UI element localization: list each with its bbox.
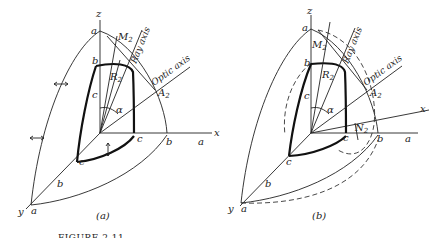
ray-line-1 [100,36,117,133]
tick-c-z: c [304,90,310,101]
panel-b-sublabel: (b) [312,210,326,221]
tick-b-y: b [265,178,271,189]
inner-curve-zy [77,66,96,162]
y-axis-label: y [227,203,234,214]
panel-a: z x y a b c c b a c b a M2 R2 A2 α Ray a… [17,8,220,221]
z-axis-label: z [95,8,102,19]
tick-b-x: b [377,133,383,144]
figure-caption: FIGURE 2.11 [58,233,124,238]
ray-axis-label: Ray axis [128,25,152,65]
inner-curve-xy [77,136,134,162]
y-axis-label: y [17,206,24,217]
outer-arc-zy [31,31,100,205]
panel-b: z x y a b c c b a c b a M2 R2 A2 N2 α Ra… [227,5,429,221]
tick-b-x: b [166,136,172,147]
dashed-curve-xy [241,140,378,203]
arrow-icon [30,136,44,140]
point-a2: A2 [369,87,382,100]
tick-b-z: b [304,57,310,68]
alpha-label: α [327,104,334,115]
ray-axis-label: Ray axis [340,25,364,65]
tick-b-y: b [57,178,63,189]
tick-a-x: a [198,136,204,147]
point-m2: M2 [311,39,327,52]
figure-canvas: z x y a b c c b a c b a M2 R2 A2 α Ray a… [0,0,442,238]
tick-c-x: c [137,133,143,144]
panel-a-sublabel: (a) [96,210,110,221]
outer-arc-zy [241,29,311,203]
inner-curve-zy [289,64,311,156]
tick-c-y: c [286,156,292,167]
tick-a-z: a [91,25,97,36]
point-r2: R2 [321,69,335,82]
alpha-label: α [116,104,123,115]
z-axis-label: z [306,5,313,16]
x-axis-label: x [214,127,220,138]
tick-b-z: b [92,55,98,66]
point-r2: R2 [109,71,123,84]
tick-c-y: c [79,156,85,167]
tick-c-x: c [343,132,349,143]
tick-a-y: a [31,205,37,216]
optic-axis-label: Optic axis [361,53,404,88]
y-axis [26,133,100,209]
arrow-icon [106,143,110,156]
tick-a-y: a [241,203,247,214]
inner-curve-xy [289,136,346,156]
x-axis-label: x [420,103,426,114]
y-axis [240,133,311,206]
outer-arc-xy [241,135,378,203]
tick-c-z: c [92,89,98,100]
outer-arc-xy [31,135,167,205]
tick-a-z: a [302,22,308,33]
tick-a-x: a [405,133,411,144]
